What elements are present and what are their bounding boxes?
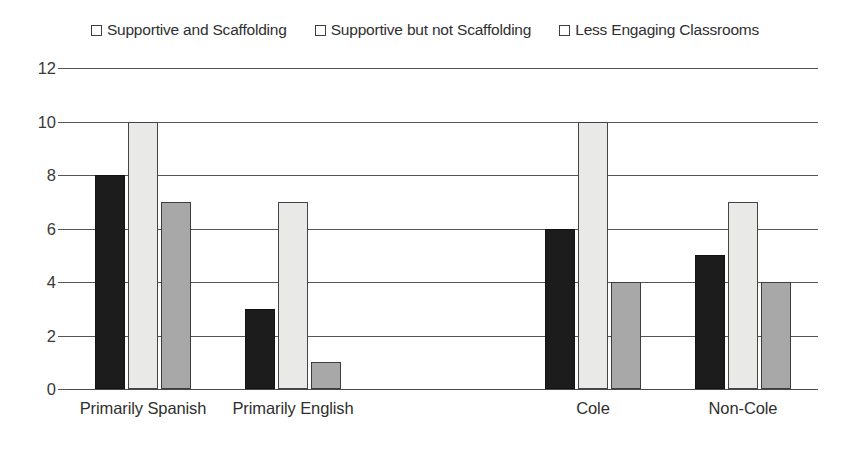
y-axis-tick <box>58 68 68 69</box>
bar <box>245 309 275 389</box>
bar <box>761 282 791 389</box>
gridline <box>68 68 818 69</box>
y-axis-tick-label: 12 <box>22 59 56 78</box>
bar <box>611 282 641 389</box>
y-axis-tick <box>58 336 68 337</box>
x-axis-tick-label: Primarily Spanish <box>80 399 207 418</box>
bar <box>728 202 758 389</box>
black-square-icon <box>91 25 102 36</box>
bar <box>95 175 125 389</box>
legend-label: Supportive but not Scaffolding <box>331 21 532 39</box>
y-axis-tick-label: 6 <box>22 219 56 238</box>
chart-legend: Supportive and Scaffolding Supportive bu… <box>0 16 850 44</box>
x-axis-tick-label: Non-Cole <box>709 399 778 418</box>
bar-chart: Supportive and Scaffolding Supportive bu… <box>0 0 850 451</box>
x-axis-tick-label: Cole <box>576 399 610 418</box>
gridline <box>68 122 818 123</box>
x-axis-tick-label: Primarily English <box>232 399 353 418</box>
bar <box>278 202 308 389</box>
y-axis-tick <box>58 122 68 123</box>
y-axis-tick-label: 0 <box>22 380 56 399</box>
y-axis-tick-label: 2 <box>22 326 56 345</box>
legend-item-supportive-and-scaffolding[interactable]: Supportive and Scaffolding <box>91 21 287 39</box>
bar <box>128 122 158 390</box>
bar <box>545 229 575 390</box>
plot-area <box>68 68 818 389</box>
y-axis-tick <box>58 175 68 176</box>
gray-square-icon <box>559 25 570 36</box>
y-axis-tick-label: 10 <box>22 112 56 131</box>
legend-item-less-engaging-classrooms[interactable]: Less Engaging Classrooms <box>559 21 759 39</box>
bar <box>578 122 608 390</box>
bar <box>161 202 191 389</box>
y-axis-tick <box>58 282 68 283</box>
gridline <box>68 175 818 176</box>
x-axis-labels: Primarily SpanishPrimarily EnglishColeNo… <box>0 399 850 429</box>
y-axis-tick-label: 4 <box>22 273 56 292</box>
legend-label: Supportive and Scaffolding <box>107 21 287 39</box>
y-axis-tick <box>58 229 68 230</box>
bar <box>311 362 341 389</box>
y-axis-tick <box>58 389 68 390</box>
legend-label: Less Engaging Classrooms <box>575 21 759 39</box>
y-axis-tick-label: 8 <box>22 166 56 185</box>
white-square-icon <box>315 25 326 36</box>
bar <box>695 255 725 389</box>
legend-item-supportive-but-not-scaffolding[interactable]: Supportive but not Scaffolding <box>315 21 532 39</box>
